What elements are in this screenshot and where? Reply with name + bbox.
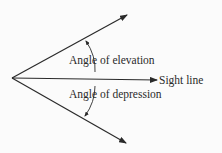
sight-line-ray [12,78,157,80]
sight-line-label: Sight line [159,75,203,87]
elevation-label: Angle of elevation [69,55,155,67]
upper-ray [12,15,127,78]
depression-label: Angle of depression [69,89,162,101]
angle-diagram: Angle of elevation Sight line Angle of d… [0,0,222,153]
